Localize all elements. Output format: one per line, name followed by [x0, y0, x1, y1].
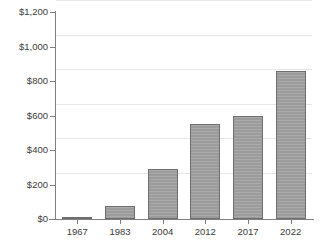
y-axis-label: $200	[0, 180, 48, 190]
gridline	[56, 0, 312, 1]
x-axis-tick	[291, 220, 292, 224]
bar	[190, 124, 220, 219]
bar	[105, 206, 135, 219]
y-axis-label: $400	[0, 145, 48, 155]
y-axis-label: $1,200	[0, 7, 48, 17]
x-axis-tick	[163, 220, 164, 224]
x-axis-tick	[77, 220, 78, 224]
x-axis-label: 2022	[266, 226, 316, 238]
plot-area	[56, 12, 312, 219]
bar	[148, 169, 178, 219]
x-axis-tick	[248, 220, 249, 224]
bar	[62, 217, 92, 219]
y-axis-label: $800	[0, 76, 48, 86]
y-axis-label: $600	[0, 111, 48, 121]
x-axis-line	[49, 219, 314, 220]
y-axis-label: $1,000	[0, 42, 48, 52]
bar	[233, 116, 263, 220]
bar-chart: $0$200$400$600$800$1,000$1,200 196719832…	[0, 0, 322, 246]
y-axis-label: $0	[0, 214, 48, 224]
x-axis-tick	[205, 220, 206, 224]
x-axis-tick	[120, 220, 121, 224]
bar	[276, 71, 306, 219]
